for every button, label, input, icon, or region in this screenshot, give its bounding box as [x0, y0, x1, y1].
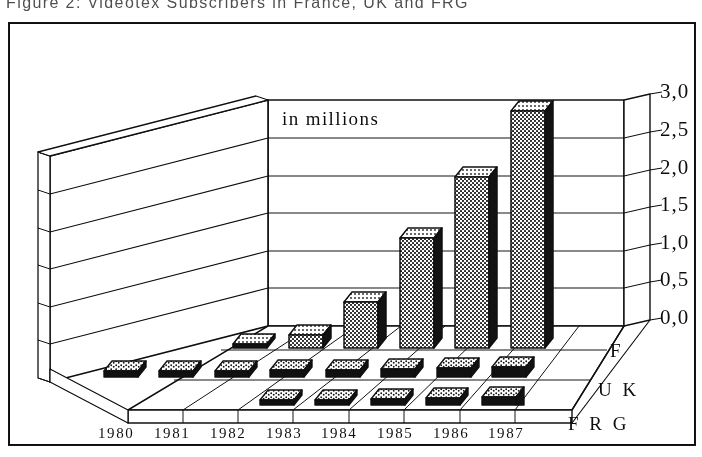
bar-uk-1985 — [381, 359, 423, 377]
x-tick-1981: 1981 — [154, 425, 190, 442]
bar-uk-1987 — [492, 357, 534, 377]
y-tick-0-5: 0,5 — [660, 267, 689, 292]
bar-uk-1984 — [326, 360, 368, 377]
x-tick-1986: 1986 — [433, 425, 469, 442]
x-tick-1983: 1983 — [266, 425, 302, 442]
bar-f-1985 — [344, 292, 386, 348]
x-tick-1987: 1987 — [488, 425, 524, 442]
series-label-frg: F R G — [568, 413, 629, 435]
x-tick-1984: 1984 — [321, 425, 357, 442]
bar-f-1986 — [400, 228, 442, 348]
bar-uk-1980 — [104, 361, 146, 377]
y-tick-3-0: 3,0 — [660, 79, 689, 104]
bar-uk-1981 — [159, 361, 201, 377]
chart-annotation: in millions — [282, 108, 379, 130]
figure-root: Figure 2: Videotex Subscribers in France… — [0, 0, 702, 457]
chart-3d-bar-plot — [10, 24, 694, 444]
y-tick-1-5: 1,5 — [660, 192, 689, 217]
figure-title: Figure 2: Videotex Subscribers in France… — [6, 0, 696, 16]
series-label-uk: U K — [598, 379, 639, 401]
figure-frame: 3,0 2,5 2,0 1,5 1,0 0,5 0,0 1980 1981 19… — [8, 22, 696, 446]
y-tick-2-5: 2,5 — [660, 117, 689, 142]
bar-f-1983 — [233, 334, 275, 348]
x-tick-1980: 1980 — [98, 425, 134, 442]
bar-f-1984 — [289, 325, 331, 348]
bar-frg-1987 — [482, 387, 524, 405]
bar-uk-1982 — [215, 361, 257, 377]
bar-frg-1985 — [371, 389, 413, 405]
bar-frg-1986 — [426, 388, 468, 405]
bar-f-1987-tall — [511, 101, 553, 348]
x-tick-1985: 1985 — [377, 425, 413, 442]
bar-f-1987 — [455, 167, 497, 348]
y-tick-2-0: 2,0 — [660, 155, 689, 180]
y-tick-0-0: 0,0 — [660, 305, 689, 330]
y-tick-1-0: 1,0 — [660, 230, 689, 255]
chart-canvas: 3,0 2,5 2,0 1,5 1,0 0,5 0,0 1980 1981 19… — [10, 24, 694, 444]
series-label-f: F — [610, 340, 624, 362]
x-tick-1982: 1982 — [210, 425, 246, 442]
bar-frg-1984 — [315, 390, 357, 405]
bar-frg-1983 — [260, 390, 302, 405]
bar-uk-1983 — [270, 360, 312, 377]
bar-uk-1986 — [437, 358, 479, 377]
